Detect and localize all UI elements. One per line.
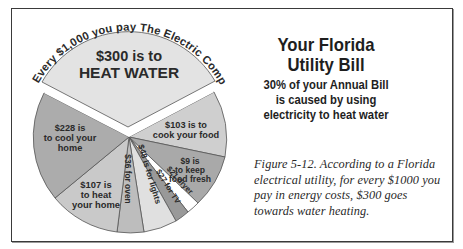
chart-subtitle: 30% of your Annual Bill is caused by usi… <box>256 78 396 123</box>
title-line-1: Your Florida <box>256 35 397 55</box>
label-oven: $36 for oven <box>123 154 133 203</box>
figure-caption: Figure 5-12. According to a Florida elec… <box>254 157 450 219</box>
subtitle-line-2: is caused by using <box>256 93 396 108</box>
chart-title: Your Florida Utility Bill <box>256 35 397 75</box>
label-cool-home: $228 is <box>55 123 86 133</box>
subtitle-line-1: 30% of your Annual Bill <box>256 78 396 93</box>
label-cook-food: $103 is to <box>165 120 207 130</box>
subtitle-line-3: electricity to heat water <box>256 108 396 123</box>
title-line-2: Utility Bill <box>256 55 397 75</box>
label-cool-home-3: home <box>58 143 83 153</box>
label-cook-food-2: cook your food <box>153 130 219 140</box>
label-cool-home-2: to cool your <box>44 133 97 143</box>
label-heat-water-2: HEAT WATER <box>79 64 179 81</box>
label-heat-water: $300 is to <box>96 48 162 64</box>
label-heat-home-3: your home <box>72 199 120 210</box>
